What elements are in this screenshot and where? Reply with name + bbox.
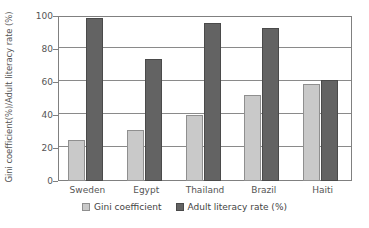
bar	[68, 140, 85, 181]
legend-item: Adult literacy rate (%)	[176, 202, 287, 212]
bar-chart: Gini coefficient(%)/Adult literacy rate …	[0, 0, 369, 228]
bar-group	[293, 16, 352, 181]
y-tick-mark	[53, 181, 58, 182]
bars-layer	[58, 16, 352, 181]
bar	[321, 80, 338, 181]
y-tick-label: 60	[27, 78, 53, 87]
x-tick-label: Sweden	[54, 184, 120, 196]
y-tick-label: 100	[27, 12, 53, 21]
x-tick-label: Egypt	[113, 184, 179, 196]
legend-item: Gini coefficient	[82, 202, 161, 212]
legend-label: Gini coefficient	[94, 202, 161, 212]
bar	[244, 95, 261, 181]
y-axis-title: Gini coefficient(%)/Adult literacy rate …	[2, 6, 16, 188]
x-tick-label: Brazil	[231, 184, 297, 196]
bar-group	[58, 16, 117, 181]
bar	[262, 28, 279, 181]
bar	[145, 59, 162, 181]
legend-label: Adult literacy rate (%)	[188, 202, 287, 212]
x-tick-label: Thailand	[172, 184, 238, 196]
legend-swatch-icon	[176, 203, 184, 211]
bar-group	[117, 16, 176, 181]
legend-swatch-icon	[82, 203, 90, 211]
y-tick-label: 20	[27, 144, 53, 153]
bar-group	[234, 16, 293, 181]
bar	[86, 18, 103, 181]
bar	[303, 84, 320, 181]
chart-legend: Gini coefficientAdult literacy rate (%)	[0, 200, 369, 214]
bar	[127, 130, 144, 181]
y-tick-label: 40	[27, 111, 53, 120]
x-tick-label: Haiti	[290, 184, 356, 196]
x-axis-labels: SwedenEgyptThailandBrazilHaiti	[58, 184, 352, 198]
y-tick-label: 0	[27, 177, 53, 186]
bar	[204, 23, 221, 181]
bar-group	[176, 16, 235, 181]
bar	[186, 115, 203, 181]
y-tick-label: 80	[27, 45, 53, 54]
